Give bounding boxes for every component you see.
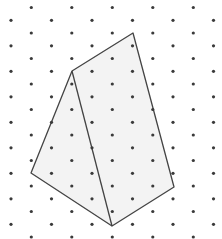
grid-dot: [9, 70, 12, 73]
grid-dot: [171, 121, 174, 124]
grid-dot: [90, 223, 93, 226]
grid-dot: [151, 184, 154, 187]
grid-dot: [30, 133, 33, 136]
grid-dot: [111, 6, 114, 9]
grid-dot: [30, 184, 33, 187]
grid-dot: [151, 210, 154, 213]
grid-dot: [70, 184, 73, 187]
grid-dot: [111, 31, 114, 34]
grid-dot: [151, 82, 154, 85]
grid-dot: [9, 44, 12, 47]
grid-dot: [171, 197, 174, 200]
grid-dot: [131, 19, 134, 22]
grid-dot: [171, 172, 174, 175]
grid-dot: [131, 197, 134, 200]
grid-dot: [70, 133, 73, 136]
grid-dot: [111, 57, 114, 60]
grid-dot: [151, 31, 154, 34]
grid-dot: [171, 146, 174, 149]
grid-dot: [50, 70, 53, 73]
grid-dot: [171, 223, 174, 226]
grid-dot: [131, 70, 134, 73]
grid-dot: [212, 95, 215, 98]
grid-dot: [9, 121, 12, 124]
grid-dot: [90, 197, 93, 200]
grid-dot: [90, 70, 93, 73]
grid-dot: [50, 172, 53, 175]
grid-dot: [111, 133, 114, 136]
grid-dot: [90, 19, 93, 22]
grid-dot: [212, 172, 215, 175]
grid-dot: [171, 70, 174, 73]
grid-dot: [111, 210, 114, 213]
grid-dot: [90, 146, 93, 149]
grid-dot: [9, 197, 12, 200]
grid-dot: [30, 210, 33, 213]
grid-dot: [192, 108, 195, 111]
grid-dot: [50, 19, 53, 22]
grid-dot: [131, 121, 134, 124]
grid-dot: [192, 133, 195, 136]
grid-dot: [30, 82, 33, 85]
grid-dot: [70, 159, 73, 162]
grid-dot: [70, 31, 73, 34]
grid-dot: [70, 210, 73, 213]
grid-dot: [131, 146, 134, 149]
grid-dot: [90, 95, 93, 98]
grid-dot: [90, 121, 93, 124]
grid-dot: [192, 184, 195, 187]
grid-dot: [70, 6, 73, 9]
grid-dot: [50, 44, 53, 47]
grid-dot: [9, 19, 12, 22]
grid-dot: [30, 6, 33, 9]
grid-dot: [30, 57, 33, 60]
grid-dot: [111, 159, 114, 162]
grid-dot: [151, 133, 154, 136]
grid-dot: [90, 172, 93, 175]
grid-dot: [151, 57, 154, 60]
grid-dot: [192, 235, 195, 238]
grid-dot: [131, 95, 134, 98]
isometric-dot-grid-diagram: [0, 0, 222, 239]
grid-dot: [70, 57, 73, 60]
grid-dot: [111, 184, 114, 187]
grid-dot: [9, 223, 12, 226]
grid-dot: [171, 19, 174, 22]
grid-dot: [50, 121, 53, 124]
grid-dot: [131, 44, 134, 47]
grid-dot: [151, 108, 154, 111]
grid-dot: [212, 70, 215, 73]
grid-dot: [212, 197, 215, 200]
grid-dot: [131, 172, 134, 175]
grid-dot: [30, 108, 33, 111]
grid-dot: [192, 210, 195, 213]
grid-dot: [70, 108, 73, 111]
grid-dot: [151, 159, 154, 162]
grid-dot: [111, 82, 114, 85]
grid-dot: [192, 159, 195, 162]
grid-dot: [50, 197, 53, 200]
grid-dot: [192, 82, 195, 85]
grid-dot: [151, 6, 154, 9]
grid-dot: [9, 146, 12, 149]
grid-dot: [9, 172, 12, 175]
grid-dot: [70, 82, 73, 85]
grid-dot: [151, 235, 154, 238]
grid-dot: [30, 31, 33, 34]
grid-dot: [192, 31, 195, 34]
grid-dot: [212, 223, 215, 226]
grid-dot: [50, 146, 53, 149]
grid-dot: [90, 44, 93, 47]
grid-dot: [50, 95, 53, 98]
grid-dot: [171, 44, 174, 47]
pentagon-shape: [31, 33, 174, 226]
grid-dot: [131, 223, 134, 226]
grid-dot: [192, 6, 195, 9]
grid-dot: [212, 121, 215, 124]
grid-dot: [212, 146, 215, 149]
grid-dot: [111, 235, 114, 238]
grid-dot: [30, 159, 33, 162]
grid-dot: [50, 223, 53, 226]
grid-dot: [30, 235, 33, 238]
grid-dot: [9, 95, 12, 98]
